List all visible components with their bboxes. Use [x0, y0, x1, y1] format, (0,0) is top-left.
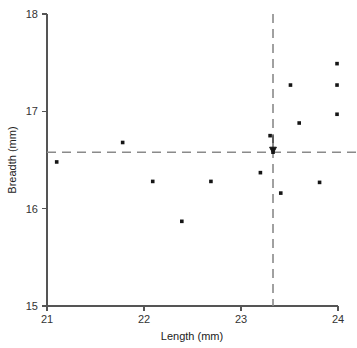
data-point	[318, 181, 322, 185]
y-tick-label-18: 18	[26, 8, 38, 20]
annotations-group	[270, 135, 277, 154]
x-tick-label-24: 24	[332, 313, 344, 325]
reference-lines-group	[47, 14, 357, 306]
data-point	[55, 160, 59, 164]
x-tick-label-23: 23	[235, 313, 247, 325]
data-point	[335, 62, 339, 66]
data-point	[289, 83, 293, 87]
y-tick-label-17: 17	[26, 105, 38, 117]
y-tick-label-16: 16	[26, 203, 38, 215]
data-point	[279, 191, 283, 195]
y-tick-label-15: 15	[26, 300, 38, 312]
y-axis-ticks	[42, 14, 47, 306]
plot-canvas: 18 17 16 15 21 22 23 24 Length (mm) Brea…	[0, 0, 357, 348]
data-point	[259, 171, 263, 175]
data-point	[151, 180, 155, 184]
data-point	[121, 141, 125, 145]
data-point	[335, 83, 339, 87]
y-axis-title: Breadth (mm)	[6, 126, 18, 193]
data-points-group	[55, 62, 339, 223]
data-point	[180, 220, 184, 224]
data-point	[209, 180, 213, 184]
data-point	[335, 112, 339, 116]
x-axis-title: Length (mm)	[161, 330, 223, 342]
data-point	[297, 121, 301, 125]
x-axis-ticks	[47, 306, 338, 311]
axis-lines	[47, 14, 338, 306]
scatter-plot-figure: 18 17 16 15 21 22 23 24 Length (mm) Brea…	[0, 0, 357, 348]
x-tick-label-22: 22	[138, 313, 150, 325]
x-tick-label-21: 21	[41, 313, 53, 325]
data-point	[268, 134, 272, 138]
